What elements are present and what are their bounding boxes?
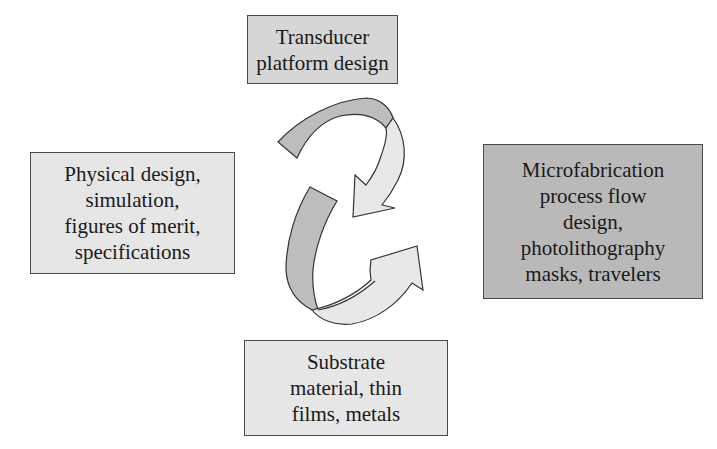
box-top-line-2: platform design: [256, 50, 388, 76]
box-top-line-1: Transducer: [276, 24, 370, 50]
box-left-line-1: Physical design,: [64, 161, 201, 187]
lower-arrow-back-band: [286, 187, 337, 310]
box-right-line-1: Microfabrication: [522, 157, 664, 183]
lower-arrow-head: [312, 246, 423, 324]
physical-design-box: Physical design, simulation, figures of …: [30, 152, 235, 274]
box-bottom-line-3: films, metals: [292, 401, 401, 427]
box-left-line-4: specifications: [75, 239, 190, 265]
box-right-line-5: masks, travelers: [525, 261, 660, 287]
substrate-material-box: Substrate material, thin films, metals: [244, 340, 448, 436]
box-bottom-line-2: material, thin: [290, 375, 402, 401]
upper-arrow-back-band: [278, 98, 393, 158]
box-bottom-line-1: Substrate: [307, 349, 385, 375]
transducer-platform-design-box: Transducer platform design: [247, 15, 398, 84]
upper-arrow-head: [353, 118, 404, 217]
box-right-line-4: photolithography: [521, 235, 666, 261]
box-right-line-2: process flow: [540, 183, 647, 209]
box-left-line-2: simulation,: [86, 187, 180, 213]
box-left-line-3: figures of merit,: [65, 213, 201, 239]
box-right-line-3: design,: [563, 209, 623, 235]
microfabrication-process-box: Microfabrication process flow design, ph…: [483, 144, 703, 299]
